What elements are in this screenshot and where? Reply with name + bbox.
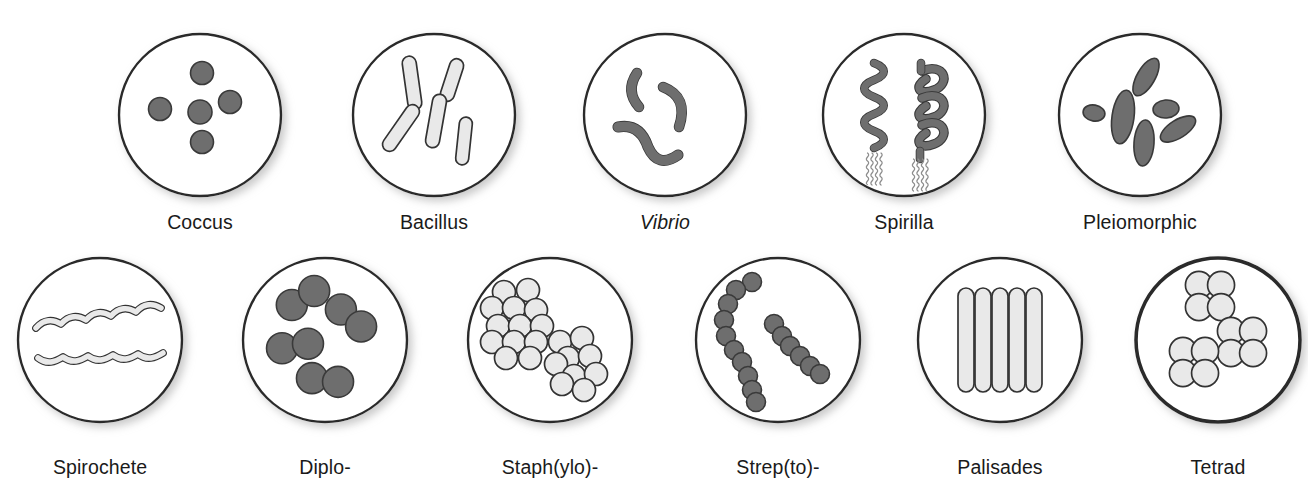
panel-vibrio	[584, 34, 746, 196]
label-strepto: Strep(to)-	[736, 458, 819, 478]
label-tetrad: Tetrad	[1191, 458, 1246, 478]
panel-circle-spirilla	[823, 34, 985, 196]
panel-spirilla	[823, 34, 985, 196]
panel-staphylo	[468, 258, 632, 422]
cells-palisades	[958, 288, 1042, 392]
panel-coccus	[119, 34, 281, 196]
label-staphylo: Staph(ylo)-	[502, 458, 598, 478]
panel-bacillus	[353, 34, 515, 196]
label-spirochete: Spirochete	[53, 458, 147, 478]
label-spirilla: Spirilla	[874, 213, 933, 233]
label-coccus: Coccus	[167, 213, 233, 233]
panel-circle-vibrio	[584, 34, 746, 196]
label-palisades: Palisades	[957, 458, 1042, 478]
panel-palisades	[918, 258, 1082, 422]
panel-pleiomorphic	[1059, 34, 1221, 196]
panel-circle-spirochete	[18, 258, 182, 422]
label-diplo: Diplo-	[299, 458, 351, 478]
label-bacillus: Bacillus	[400, 213, 468, 233]
label-vibrio: Vibrio	[640, 213, 690, 233]
panel-diplo	[243, 258, 407, 422]
panel-strepto	[696, 258, 860, 422]
label-pleiomorphic: Pleiomorphic	[1083, 213, 1197, 233]
panel-spirochete	[18, 258, 182, 422]
panel-tetrad	[1136, 258, 1300, 422]
